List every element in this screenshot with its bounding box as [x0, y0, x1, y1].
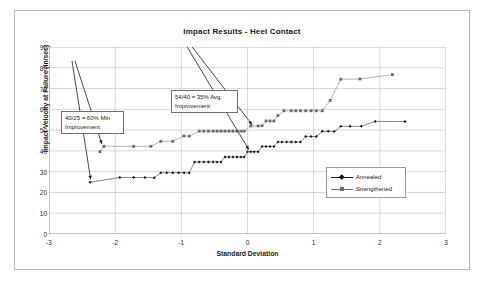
- x-tick-label: 2: [378, 239, 382, 246]
- y-tick-label: 30: [40, 168, 47, 175]
- x-axis-label: Standard Deviation: [49, 250, 446, 257]
- y-tick-label: 20: [40, 189, 47, 196]
- legend-marker-annealed: [331, 172, 353, 182]
- y-tick-label: 80: [40, 64, 47, 71]
- annotation-min-improvement: 40/25 = 60% Min Improvement: [61, 111, 124, 134]
- y-tick-label: 60: [40, 106, 47, 113]
- y-tick-label: 50: [40, 127, 47, 134]
- legend-item-strengthened: Strengthened: [331, 183, 401, 195]
- x-axis-tick-labels: -3-2-10123: [49, 237, 446, 249]
- x-tick-label: -2: [112, 239, 118, 246]
- legend-label-annealed: Annealed: [356, 174, 381, 180]
- plot-svg: [49, 47, 446, 234]
- x-tick-label: -3: [46, 239, 52, 246]
- y-axis-tick-labels: 0102030405060708090: [27, 47, 47, 234]
- chart-title: Impact Results - Heel Contact: [15, 27, 469, 36]
- y-tick-label: 90: [40, 44, 47, 51]
- x-tick-label: -1: [178, 239, 184, 246]
- y-tick-label: 10: [40, 210, 47, 217]
- y-tick-label: 0: [43, 231, 47, 238]
- chart-legend: Annealed Strengthened: [326, 167, 406, 198]
- legend-item-annealed: Annealed: [331, 171, 401, 183]
- y-tick-label: 40: [40, 147, 47, 154]
- annotation-avg-improvement: 54/40 = 35% Avg. Improvement: [171, 90, 238, 113]
- x-tick-label: 3: [444, 239, 448, 246]
- x-tick-label: 1: [312, 239, 316, 246]
- gridlines: [49, 47, 446, 234]
- chart-figure-frame: Impact Results - Heel Contact Impact Vel…: [14, 10, 470, 270]
- legend-marker-strengthened: [331, 184, 353, 194]
- x-tick-label: 0: [246, 239, 250, 246]
- y-tick-label: 70: [40, 85, 47, 92]
- legend-label-strengthened: Strengthened: [356, 186, 392, 192]
- plot-area: [49, 47, 446, 234]
